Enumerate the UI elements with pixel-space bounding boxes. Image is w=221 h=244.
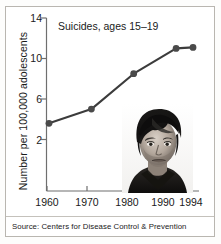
source-divider (6, 216, 214, 217)
data-point-1970[interactable] (88, 106, 95, 113)
portrait-illustration (122, 104, 193, 193)
y-axis-ticks (41, 18, 47, 140)
source-note: Source: Centers for Disease Control & Pr… (12, 222, 186, 231)
teen-portrait-photo (122, 104, 193, 193)
figure-container: Number per 100,000 adolescents Suicides,… (0, 0, 221, 244)
data-point-1980[interactable] (130, 70, 137, 77)
data-point-1990[interactable] (173, 45, 180, 52)
data-point-1960[interactable] (46, 120, 53, 127)
data-point-1994[interactable] (190, 44, 197, 51)
